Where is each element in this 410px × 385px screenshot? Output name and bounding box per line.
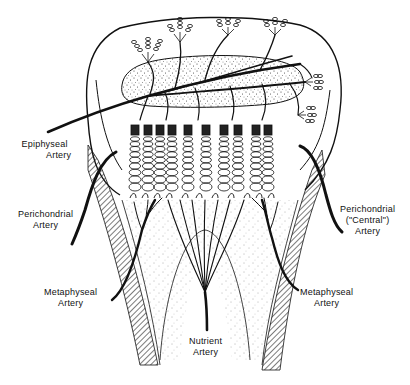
label-line: Metaphyseal bbox=[44, 287, 97, 298]
label-metaphyseal-artery-right: Metaphyseal Artery bbox=[300, 287, 353, 309]
label-line: Artery bbox=[340, 226, 395, 237]
growth-plate-blood-supply-diagram bbox=[0, 0, 410, 385]
label-line: Artery bbox=[18, 150, 71, 161]
label-line: Perichondrial bbox=[340, 204, 395, 215]
label-perichondrial-artery-left: Perichondrial Artery bbox=[18, 209, 73, 231]
label-line: Nutrient bbox=[189, 336, 222, 347]
label-line: Artery bbox=[18, 220, 73, 231]
vascular-loops bbox=[130, 194, 274, 199]
perichondrium-right-inner bbox=[300, 90, 330, 170]
label-line: Artery bbox=[189, 347, 222, 358]
label-epiphyseal-artery: Epiphyseal Artery bbox=[18, 139, 71, 161]
label-line: Artery bbox=[44, 298, 97, 309]
label-line: Artery bbox=[300, 298, 353, 309]
label-line: Perichondrial bbox=[18, 209, 73, 220]
label-metaphyseal-artery-left: Metaphyseal Artery bbox=[44, 287, 97, 309]
chondrocyte-columns bbox=[129, 125, 274, 191]
label-line: ("Central") bbox=[340, 215, 395, 226]
label-line: Epiphyseal bbox=[18, 139, 71, 150]
label-perichondrial-central-artery: Perichondrial ("Central") Artery bbox=[340, 204, 395, 237]
label-line: Metaphyseal bbox=[300, 287, 353, 298]
label-nutrient-artery: Nutrient Artery bbox=[189, 336, 222, 358]
